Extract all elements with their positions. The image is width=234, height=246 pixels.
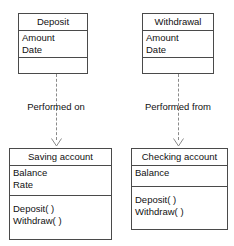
class-box-checking-account[interactable]: Checking account Balance Deposit( ) With… (131, 148, 228, 230)
class-attributes-compartment: Amount Date (143, 31, 213, 58)
class-attribute: Amount (22, 32, 84, 44)
class-operation: Deposit( ) (135, 194, 224, 206)
class-attribute: Date (146, 44, 210, 56)
class-attributes-compartment: Balance (132, 166, 227, 187)
class-name-compartment: Deposit (19, 14, 87, 31)
class-attribute: Balance (13, 167, 108, 179)
class-operation: Deposit( ) (13, 203, 108, 215)
relationship-label-performed-on: Performed on (6, 101, 106, 113)
class-name-compartment: Checking account (132, 149, 227, 166)
class-attributes-compartment: Amount Date (19, 31, 87, 58)
class-attribute: Rate (13, 179, 108, 191)
class-name-label: Deposit (22, 15, 84, 28)
class-name-label: Saving account (13, 150, 108, 163)
class-operations-compartment: Deposit( ) Withdraw( ) (10, 196, 111, 239)
class-name-label: Checking account (135, 150, 224, 163)
class-attribute: Amount (146, 32, 210, 44)
dependency-arrowhead-deposit-saving (51, 138, 62, 147)
relationship-label-performed-from: Performed from (128, 101, 228, 113)
class-attribute: Balance (135, 167, 224, 179)
class-operation: Withdraw( ) (135, 206, 224, 218)
class-box-withdrawal[interactable]: Withdrawal Amount Date (142, 13, 214, 74)
dependency-arrowhead-withdrawal-checking (173, 138, 184, 147)
class-name-compartment: Saving account (10, 149, 111, 166)
class-name-label: Withdrawal (146, 15, 210, 28)
uml-class-diagram-canvas: Deposit Amount Date Withdrawal Amount Da… (0, 0, 234, 246)
class-operations-compartment (143, 58, 213, 73)
class-operation: Withdraw( ) (13, 215, 108, 227)
class-box-saving-account[interactable]: Saving account Balance Rate Deposit( ) W… (9, 148, 112, 240)
class-box-deposit[interactable]: Deposit Amount Date (18, 13, 88, 74)
class-operations-compartment: Deposit( ) Withdraw( ) (132, 187, 227, 229)
class-attribute: Date (22, 44, 84, 56)
class-operations-compartment (19, 58, 87, 73)
class-attributes-compartment: Balance Rate (10, 166, 111, 196)
class-name-compartment: Withdrawal (143, 14, 213, 31)
